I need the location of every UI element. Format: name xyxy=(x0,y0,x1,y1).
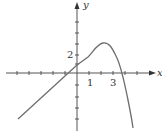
function-graph xyxy=(0,0,162,133)
x-axis-label: x xyxy=(157,68,162,78)
x-tick-label-3: 3 xyxy=(110,78,116,88)
x-tick-label-1: 1 xyxy=(87,78,93,88)
x-axis-arrow-icon xyxy=(149,71,156,76)
y-tick-label-2: 2 xyxy=(67,50,73,60)
y-axis-label: y xyxy=(83,0,89,10)
y-axis-arrow-icon xyxy=(75,2,80,9)
